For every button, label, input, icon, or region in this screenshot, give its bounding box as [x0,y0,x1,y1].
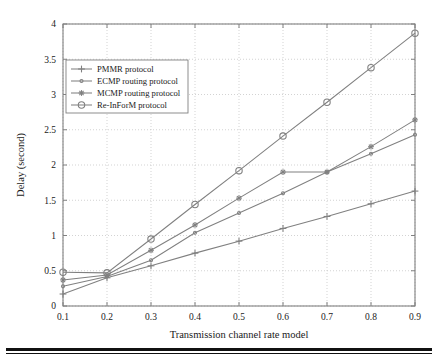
x-tick-label: 0.1 [57,312,69,322]
y-tick-label: 4 [51,19,56,29]
axis-titles: Transmission channel rate modelDelay (se… [15,133,308,340]
line-chart: 00.511.522.533.540.10.20.30.40.50.60.70.… [0,0,438,345]
y-tick-label: 0 [51,301,56,311]
x-tick-label: 0.3 [145,312,157,322]
legend-label: Re-InForM protocol [97,100,168,110]
x-tick-label: 0.4 [189,312,201,322]
y-tick-label: 1.5 [44,196,56,206]
footer-rule-thin [6,353,432,354]
y-tick-label: 2.5 [44,125,56,135]
x-axis-title: Transmission channel rate model [170,329,309,340]
footer-rule-thick [6,348,432,351]
x-tick-label: 0.9 [409,312,421,322]
delay-vs-transmission-rate-figure: 00.511.522.533.540.10.20.30.40.50.60.70.… [0,0,438,361]
y-tick-label: 1 [51,231,56,241]
y-tick-label: 3 [51,90,56,100]
y-tick-label: 2 [51,160,56,170]
y-tick-label: 0.5 [44,266,56,276]
y-tick-label: 3.5 [44,55,56,65]
x-tick-label: 0.8 [365,312,377,322]
x-tick-label: 0.2 [101,312,113,322]
x-tick-label: 0.6 [277,312,289,322]
x-tick-label: 0.7 [321,312,333,322]
legend-label: PMMR protocol [97,64,154,74]
x-tick-label: 0.5 [233,312,245,322]
y-axis-title: Delay (second) [15,133,27,197]
legend-label: ECMP routing protocol [97,76,178,86]
legend-label: MCMP routing protocol [97,88,181,98]
legend: PMMR protocolECMP routing protocolMCMP r… [66,60,188,113]
